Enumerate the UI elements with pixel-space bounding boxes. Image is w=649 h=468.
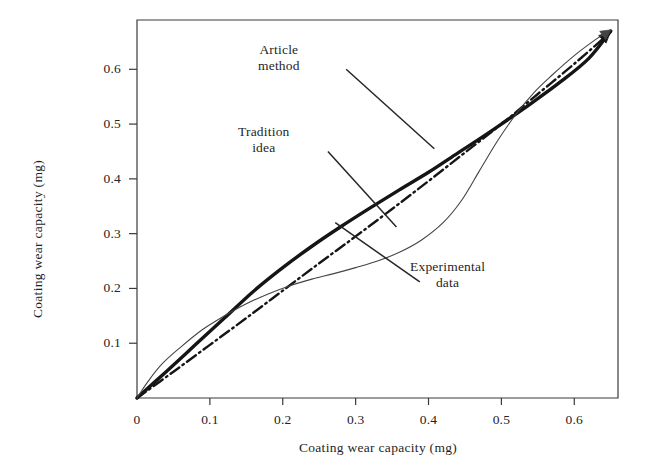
x-tick-label: 0 (134, 412, 141, 428)
annotation-article-method: Article method (258, 42, 300, 75)
annotation-tradition-idea-line1: Tradition (238, 124, 290, 140)
annotation-tradition-idea-line2: idea (238, 140, 290, 156)
y-tick-label: 0.6 (75, 61, 121, 77)
x-axis-ticks (210, 398, 574, 405)
data-series-group (137, 30, 611, 398)
leader-line-experimental-data (335, 223, 420, 282)
y-tick-label: 0.3 (75, 226, 121, 242)
y-axis-title: Coating wear capacity (mg) (30, 160, 46, 318)
y-tick-label: 0.2 (75, 280, 121, 296)
axis-frame (137, 20, 618, 398)
x-tick-label: 0.4 (420, 412, 437, 428)
annotation-article-method-line1: Article (258, 42, 300, 58)
y-tick-label: 0.5 (75, 116, 121, 132)
plot-frame-border (137, 20, 618, 398)
annotation-leader-lines (328, 69, 434, 282)
y-tick-label: 0.4 (75, 171, 121, 187)
annotation-experimental-data: Experimental data (410, 259, 485, 292)
annotation-experimental-data-line1: Experimental (410, 259, 485, 275)
leader-line-tradition-idea (328, 151, 397, 227)
annotation-article-method-line2: method (258, 58, 300, 74)
leader-line-article-method (346, 69, 434, 148)
x-tick-label: 0.3 (347, 412, 364, 428)
y-tick-label: 0.1 (75, 335, 121, 351)
y-axis-ticks (129, 69, 137, 343)
x-tick-label: 0.2 (274, 412, 291, 428)
series-line-experimental-data (137, 30, 611, 398)
x-axis-title: Coating wear capacity (mg) (299, 440, 457, 456)
annotation-experimental-data-line2: data (410, 275, 485, 291)
x-tick-label: 0.6 (566, 412, 583, 428)
x-tick-label: 0.5 (493, 412, 510, 428)
chart-figure: 00.10.20.30.40.50.6 0.10.20.30.40.50.6 C… (0, 0, 649, 468)
x-tick-label: 0.1 (201, 412, 218, 428)
annotation-tradition-idea: Tradition idea (238, 124, 290, 157)
